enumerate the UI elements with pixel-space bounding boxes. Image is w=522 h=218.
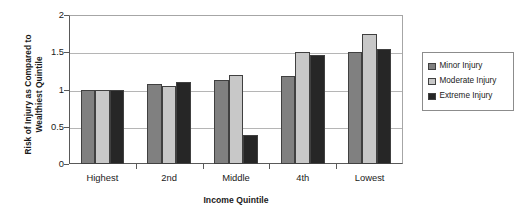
x-tick-mark xyxy=(336,164,337,169)
bar-group xyxy=(336,15,403,164)
legend-label: Moderate Injury xyxy=(440,77,497,85)
y-axis-title: Risk of Injury as Compared to Wealthiest… xyxy=(23,15,44,175)
bars-layer xyxy=(69,15,403,164)
bar xyxy=(295,52,310,164)
legend-swatch xyxy=(428,63,436,71)
bar-group xyxy=(203,15,270,164)
x-tick-label: Lowest xyxy=(330,173,410,182)
bar xyxy=(310,55,325,164)
bar xyxy=(147,84,162,164)
legend-label: Minor Injury xyxy=(440,62,483,70)
bar xyxy=(229,75,244,164)
y-tick-label: 0.5 xyxy=(24,122,64,131)
x-tick-mark xyxy=(203,164,204,169)
x-tick-mark xyxy=(136,164,137,169)
bar-group xyxy=(136,15,203,164)
legend-item: Minor Injury xyxy=(428,59,508,74)
x-tick-mark xyxy=(269,164,270,169)
legend-item: Moderate Injury xyxy=(428,74,508,89)
y-tick-label: 1.5 xyxy=(24,47,64,56)
bar xyxy=(176,82,191,164)
bar xyxy=(81,90,96,165)
x-axis-title: Income Quintile xyxy=(69,195,403,205)
y-tick-label: 1 xyxy=(24,85,64,94)
bar-group xyxy=(269,15,336,164)
chart-legend: Minor InjuryModerate InjuryExtreme Injur… xyxy=(422,52,514,111)
legend-item: Extreme Injury xyxy=(428,89,508,104)
legend-label: Extreme Injury xyxy=(440,92,493,100)
bar xyxy=(162,86,177,164)
bar xyxy=(281,76,296,164)
y-tick-label: 2 xyxy=(24,10,64,19)
legend-swatch xyxy=(428,78,436,86)
bar xyxy=(95,90,110,165)
bar xyxy=(377,49,392,164)
bar xyxy=(348,52,363,164)
bar xyxy=(214,80,229,164)
bar xyxy=(362,34,377,164)
legend-swatch xyxy=(428,93,436,101)
y-tick-label: 0 xyxy=(24,159,64,168)
bar xyxy=(110,90,125,165)
y-tick-mark xyxy=(64,164,69,165)
bar xyxy=(243,135,258,164)
bar-group xyxy=(69,15,136,164)
bar-chart: Risk of Injury as Compared to Wealthiest… xyxy=(0,0,522,218)
